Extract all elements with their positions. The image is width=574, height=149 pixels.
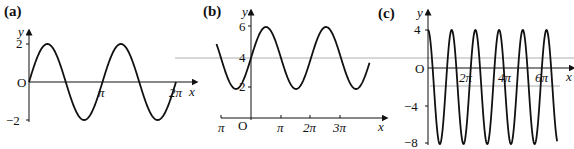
origin-label-c: O [415, 61, 424, 76]
origin-label-b: O [238, 118, 247, 133]
y-tick-neg2-a: −2 [6, 113, 20, 128]
y-tick-neg8-c: −8 [404, 135, 418, 149]
panel-label-c: (c) [378, 5, 395, 22]
x-axis-label-c: x [565, 69, 572, 84]
panel-label-b: (b) [203, 3, 221, 20]
chart-b: (b) y 6 4 2 π O π 2π 3π x [203, 3, 385, 135]
x-tick-pi-b: π [277, 120, 284, 135]
y-tick-4-b: 4 [239, 50, 246, 65]
y-tick-2-a: 2 [16, 36, 23, 51]
y-tick-4-c: 4 [414, 22, 421, 37]
y-tick-6-b: 6 [239, 19, 246, 34]
curve-c [428, 30, 557, 144]
x-tick-neg-pi-b: π [218, 120, 225, 135]
y-tick-neg4-c: −4 [404, 99, 418, 114]
y-axis-label-b: y [240, 4, 248, 19]
panel-label-a: (a) [4, 3, 22, 20]
x-tick-3pi-b: 3π [332, 120, 347, 135]
scan-artifact-lines [175, 58, 574, 86]
chart-c: (c) y 4 O −4 −8 2π 4π 6π x [378, 5, 572, 149]
origin-label-a: O [17, 75, 26, 90]
y-axis-label-c: y [415, 5, 423, 20]
x-tick-2pi-b: 2π [303, 120, 317, 135]
x-axis-label-a: x [188, 84, 195, 99]
x-axis-label-b: x [377, 119, 384, 134]
figure-canvas: (a) y 2 O −2 π 2π x (b) y 6 4 2 π O π 2π… [0, 0, 574, 149]
chart-a: (a) y 2 O −2 π 2π x [4, 3, 195, 128]
